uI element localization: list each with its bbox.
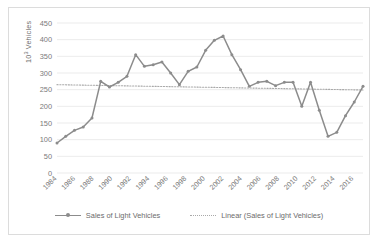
chart-legend: Sales of Light VehiclesLinear (Sales of … xyxy=(9,211,369,220)
legend-dotted-line-icon xyxy=(190,212,216,220)
x-axis-tick-label: 1988 xyxy=(78,174,96,192)
y-axis-tick-label: 100 xyxy=(40,135,52,144)
x-axis-tick-label: 2002 xyxy=(208,174,226,192)
y-axis-tick-labels: 050100150200250300350400450 xyxy=(40,19,52,178)
data-point-marker xyxy=(134,53,137,56)
legend-item-label: Sales of Light Vehicles xyxy=(86,211,160,220)
y-axis-tick-label: 400 xyxy=(40,35,52,44)
x-axis-tick-label: 2012 xyxy=(300,174,318,192)
chart-plot-area: 050100150200250300350400450 198419861988… xyxy=(9,8,369,234)
y-axis-tick-label: 200 xyxy=(40,102,52,111)
y-axis-tick-label: 450 xyxy=(40,19,52,28)
y-axis-tick-label: 300 xyxy=(40,69,52,78)
data-point-marker xyxy=(300,105,303,108)
legend-item-label: Linear (Sales of Light Vehicles) xyxy=(221,211,323,220)
data-point-marker xyxy=(353,101,356,104)
data-point-marker xyxy=(143,65,146,68)
x-axis-tick-label: 1998 xyxy=(171,174,189,192)
legend-item[interactable]: Linear (Sales of Light Vehicles) xyxy=(190,211,323,220)
x-axis-tick-label: 1996 xyxy=(152,174,170,192)
data-point-marker xyxy=(204,49,207,52)
y-axis-tick-label: 50 xyxy=(44,152,52,161)
data-point-marker xyxy=(73,129,76,132)
chart-frame: 103 Vehicles 050100150200250300350400450… xyxy=(8,7,370,235)
data-point-marker xyxy=(90,117,93,120)
data-point-marker xyxy=(257,81,260,84)
data-point-marker xyxy=(125,75,128,78)
y-axis-tick-label: 350 xyxy=(40,52,52,61)
data-point-marker xyxy=(160,61,163,64)
data-point-marker xyxy=(117,81,120,84)
data-point-marker xyxy=(178,83,181,86)
x-axis-tick-label: 2004 xyxy=(226,174,244,192)
data-point-marker xyxy=(327,135,330,138)
legend-item[interactable]: Sales of Light Vehicles xyxy=(55,211,160,220)
x-axis-tick-label: 2016 xyxy=(337,174,355,192)
data-point-marker xyxy=(195,66,198,69)
x-axis-tick-label: 1994 xyxy=(133,174,151,192)
data-point-marker xyxy=(56,142,59,145)
data-point-marker xyxy=(283,81,286,84)
data-point-marker xyxy=(274,84,277,87)
x-axis-tick-label: 2008 xyxy=(263,174,281,192)
data-point-marker xyxy=(213,39,216,42)
data-point-marker xyxy=(187,70,190,73)
data-point-marker xyxy=(222,35,225,38)
data-point-marker xyxy=(309,81,312,84)
data-point-marker xyxy=(99,80,102,83)
x-axis-tick-label: 1990 xyxy=(96,174,114,192)
x-axis-tick-label: 2006 xyxy=(245,174,263,192)
x-axis-tick-label: 2014 xyxy=(319,174,337,192)
y-axis-tick-label: 250 xyxy=(40,85,52,94)
data-point-marker xyxy=(64,135,67,138)
data-point-marker xyxy=(362,85,365,88)
data-point-marker xyxy=(82,126,85,129)
data-point-marker xyxy=(239,68,242,71)
data-point-marker xyxy=(108,86,111,89)
data-point-marker xyxy=(335,131,338,134)
y-axis-tick-label: 150 xyxy=(40,119,52,128)
trendline-series xyxy=(57,85,363,90)
data-point-marker xyxy=(292,81,295,84)
data-point-marker xyxy=(169,72,172,75)
data-point-marker xyxy=(152,63,155,66)
data-point-marker xyxy=(248,85,251,88)
line-chart: 050100150200250300350400450 198419861988… xyxy=(9,8,371,236)
x-axis-tick-label: 1992 xyxy=(115,174,133,192)
x-axis-tick-label: 2010 xyxy=(282,174,300,192)
data-point-marker xyxy=(230,53,233,56)
x-axis-tick-label: 1984 xyxy=(41,174,59,192)
data-point-marker xyxy=(344,114,347,117)
x-axis-tick-label: 2000 xyxy=(189,174,207,192)
x-axis-tick-label: 1986 xyxy=(59,174,77,192)
legend-line-marker-icon xyxy=(55,212,81,220)
x-axis-tick-labels: 1984198619881990199219941996199820002002… xyxy=(41,174,355,192)
data-point-marker xyxy=(318,109,321,112)
data-point-marker xyxy=(265,80,268,83)
